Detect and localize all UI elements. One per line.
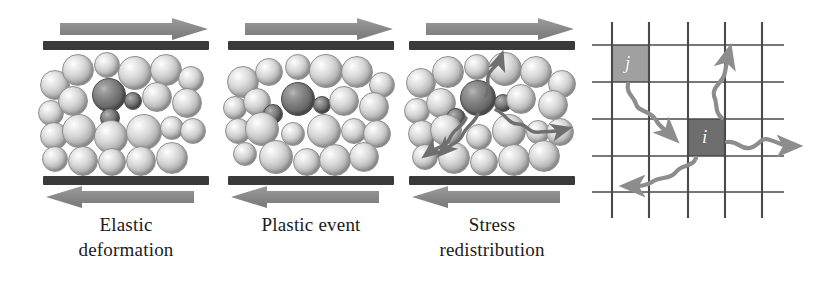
propagation-arrow-right bbox=[727, 139, 790, 148]
lattice-cell-label-i: i bbox=[702, 127, 707, 146]
propagation-arrow-left bbox=[632, 158, 696, 186]
lattice-cell-j bbox=[612, 45, 649, 82]
panel-lattice-diagram: j i bbox=[0, 0, 822, 283]
lattice-cell-label-j: j bbox=[625, 53, 630, 72]
elastoplastic-model-figure: Elastic deformation bbox=[0, 0, 822, 283]
